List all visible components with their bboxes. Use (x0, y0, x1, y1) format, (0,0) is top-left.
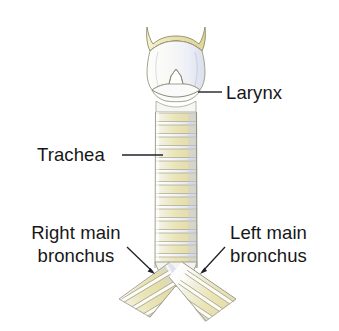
leader-arrow-left-bronchus (200, 247, 225, 274)
label-right-main-bronchus: Right main bronchus (8, 221, 144, 267)
label-left-main-bronchus: Left main bronchus (230, 221, 339, 267)
label-right-main-bronchus-line2: bronchus (8, 244, 144, 267)
larynx-group (147, 27, 206, 112)
label-larynx: Larynx (226, 81, 282, 104)
anatomy-figure: Larynx Trachea Right main bronchus Left … (0, 0, 339, 331)
label-trachea: Trachea (37, 143, 105, 166)
thyroid-cartilage (147, 41, 205, 90)
cricoid-cartilage (152, 84, 200, 112)
label-left-main-bronchus-line2: bronchus (230, 244, 339, 267)
label-right-main-bronchus-line1: Right main (8, 221, 144, 244)
label-left-main-bronchus-line1: Left main (230, 221, 339, 244)
trachea-group (154, 110, 198, 270)
left-main-bronchus (164, 261, 252, 331)
